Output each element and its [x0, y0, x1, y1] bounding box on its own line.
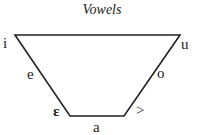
vowel-label-u: u — [181, 37, 189, 52]
vowel-label-a: a — [93, 120, 100, 135]
vowel-label-epsilon: ɛ — [53, 104, 59, 119]
vowel-label-open-o: > — [136, 103, 144, 118]
trapezoid-outline — [15, 35, 180, 116]
vowel-label-i: i — [3, 36, 7, 51]
vowel-label-o: o — [157, 66, 165, 81]
vowel-label-e: e — [27, 67, 34, 82]
